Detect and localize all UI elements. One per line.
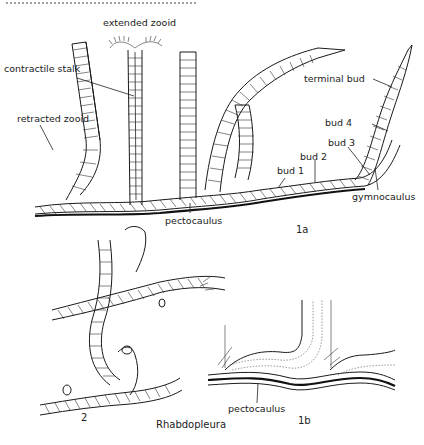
label-pectocaulus-1b: pectocaulus <box>228 404 285 414</box>
panel-number-2: 2 <box>81 413 87 423</box>
panel-1a-drawing <box>35 36 412 216</box>
label-bud-1: bud 1 <box>277 166 304 176</box>
label-retracted-zooid: retracted zooid <box>17 114 89 124</box>
label-terminal-bud: terminal bud <box>304 74 365 84</box>
label-gymnocaulus: gymnocaulus <box>352 192 415 202</box>
label-extended-zooid: extended zooid <box>103 18 176 28</box>
label-contractile-stalk: contractile stalk <box>4 64 80 74</box>
label-bud-4: bud 4 <box>325 118 352 128</box>
rhabdopleura-figure: extended zooid contractile stalk retract… <box>0 0 424 445</box>
panel-2-drawing <box>40 226 225 415</box>
panel-number-1a: 1a <box>296 225 309 235</box>
figure-caption-genus: Rhabdopleura <box>156 420 226 430</box>
panel-1b-drawing <box>208 300 395 403</box>
label-pectocaulus-1a: pectocaulus <box>165 216 222 226</box>
panel-number-1b: 1b <box>298 416 311 426</box>
label-bud-3: bud 3 <box>328 138 355 148</box>
label-bud-2: bud 2 <box>300 152 327 162</box>
